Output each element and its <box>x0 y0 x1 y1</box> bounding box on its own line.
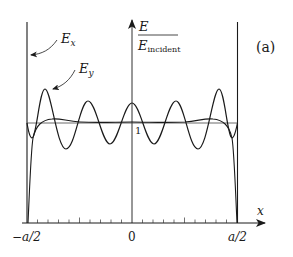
tick-label-zero: 0 <box>128 230 136 244</box>
ex-annotation-arrow <box>31 40 57 55</box>
ex-label: Ex <box>60 31 76 48</box>
tick-label-left: −a/2 <box>12 230 41 244</box>
ey-label: Ey <box>78 61 95 78</box>
x-axis-label: x <box>257 204 264 218</box>
tick-label-right: a/2 <box>228 230 247 244</box>
y-label-denominator: Eincident <box>137 38 181 54</box>
ey-annotation-arrow <box>53 70 75 89</box>
field-profile-chart: Ex Ey E Eincident (a) 1 −a/2 0 a/2 x <box>0 0 293 257</box>
panel-label: (a) <box>256 39 275 55</box>
reference-value-label: 1 <box>135 125 141 136</box>
y-label-numerator: E <box>138 19 149 34</box>
